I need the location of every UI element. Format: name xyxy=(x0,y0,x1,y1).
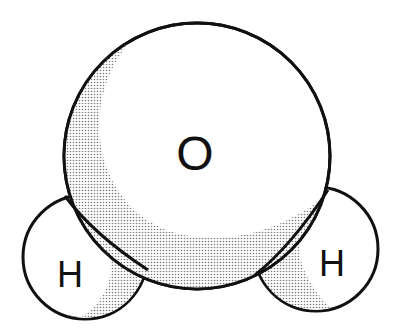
hydrogen-left-label: H xyxy=(57,254,83,295)
hydrogen-right-label: H xyxy=(319,243,345,284)
oxygen-label: O xyxy=(176,127,213,180)
water-molecule-diagram: O H H xyxy=(0,0,399,333)
